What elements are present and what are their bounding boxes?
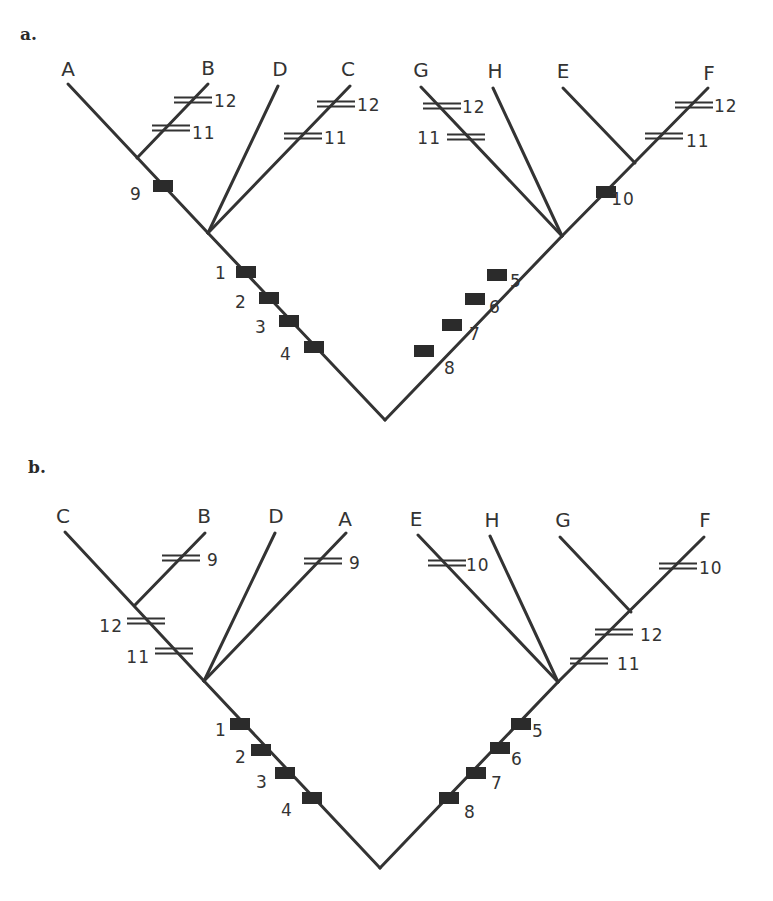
character-box-marker — [236, 266, 256, 278]
character-number: 7 — [469, 324, 481, 344]
character-number: 4 — [280, 344, 292, 364]
character-number: 10 — [611, 189, 635, 209]
cladogram-figure: a.ABDCGHEF912341056781211121112111211b.C… — [0, 0, 773, 901]
character-number: 9 — [130, 184, 142, 204]
character-box-marker — [442, 319, 462, 331]
character-box-marker — [259, 292, 279, 304]
character-box-marker — [153, 180, 173, 192]
double-hash-marker — [152, 126, 190, 131]
branch-line — [490, 536, 558, 682]
character-number: 10 — [466, 555, 490, 575]
character-number: 3 — [256, 772, 268, 792]
taxon-label: F — [703, 61, 715, 85]
taxon-label: B — [197, 504, 211, 528]
character-number: 1 — [215, 263, 227, 283]
taxon-label: B — [201, 56, 215, 80]
character-box-marker — [279, 315, 299, 327]
double-hash-marker — [645, 134, 683, 139]
double-hash-marker — [304, 559, 342, 564]
panel-b: b.CBDAEHGF1234567899121110101211 — [28, 457, 723, 868]
character-number: 12 — [214, 91, 238, 111]
branch-line — [137, 84, 208, 158]
character-box-marker — [251, 744, 271, 756]
character-number: 12 — [99, 616, 123, 636]
character-number: 1 — [215, 720, 227, 740]
character-number: 7 — [491, 773, 503, 793]
taxon-label: G — [413, 58, 429, 82]
taxon-label: A — [338, 507, 352, 531]
character-number: 12 — [357, 95, 381, 115]
panel-label: a. — [20, 24, 37, 44]
taxon-label: C — [56, 504, 70, 528]
double-hash-marker — [317, 102, 355, 107]
character-number: 9 — [349, 553, 361, 573]
character-box-marker — [465, 293, 485, 305]
character-number: 6 — [489, 297, 501, 317]
character-number: 2 — [235, 747, 247, 767]
character-box-marker — [439, 792, 459, 804]
character-number: 9 — [207, 550, 219, 570]
branch-line — [493, 88, 562, 236]
double-hash-marker — [447, 135, 485, 140]
character-number: 10 — [699, 558, 723, 578]
character-number: 12 — [640, 625, 664, 645]
branch-line — [563, 88, 635, 163]
double-hash-marker — [428, 561, 466, 566]
panel-a: a.ABDCGHEF912341056781211121112111211 — [20, 24, 738, 420]
cladogram-canvas: a.ABDCGHEF912341056781211121112111211b.C… — [0, 0, 773, 901]
double-hash-marker — [423, 104, 461, 109]
character-number: 12 — [714, 96, 738, 116]
character-number: 11 — [417, 128, 441, 148]
branch-line — [204, 533, 346, 681]
character-number: 8 — [464, 802, 476, 822]
character-number: 5 — [532, 721, 544, 741]
taxon-label: E — [557, 59, 570, 83]
character-number: 6 — [511, 749, 523, 769]
character-number: 12 — [462, 97, 486, 117]
character-number: 5 — [510, 271, 522, 291]
character-number: 2 — [235, 292, 247, 312]
character-box-marker — [302, 792, 322, 804]
character-box-marker — [487, 269, 507, 281]
double-hash-marker — [675, 103, 713, 108]
character-box-marker — [511, 718, 531, 730]
double-hash-marker — [570, 659, 608, 664]
taxon-label: G — [555, 508, 571, 532]
character-number: 11 — [192, 123, 216, 143]
character-number: 11 — [324, 128, 348, 148]
character-number: 8 — [444, 358, 456, 378]
character-box-marker — [275, 767, 295, 779]
character-number: 11 — [686, 131, 710, 151]
taxon-label: C — [341, 57, 355, 81]
character-box-marker — [304, 341, 324, 353]
character-box-marker — [414, 345, 434, 357]
character-number: 11 — [126, 647, 150, 667]
character-number: 11 — [617, 654, 641, 674]
panel-label: b. — [28, 457, 46, 477]
taxon-label: E — [410, 507, 423, 531]
taxon-label: F — [699, 508, 711, 532]
branch-line — [560, 537, 631, 612]
double-hash-marker — [595, 630, 633, 635]
character-number: 3 — [255, 317, 267, 337]
taxon-label: H — [484, 508, 499, 532]
taxon-label: H — [487, 59, 502, 83]
character-number: 4 — [281, 800, 293, 820]
character-box-marker — [466, 767, 486, 779]
taxon-label: D — [268, 504, 283, 528]
character-box-marker — [230, 718, 250, 730]
branch-line — [135, 533, 205, 605]
taxon-label: D — [272, 57, 287, 81]
taxon-label: A — [61, 57, 75, 81]
character-box-marker — [490, 742, 510, 754]
double-hash-marker — [659, 564, 697, 569]
